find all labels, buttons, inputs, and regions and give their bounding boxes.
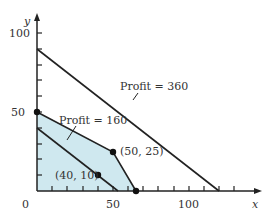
x-axis-label: x — [252, 198, 259, 211]
y-axis-label: y — [23, 15, 31, 28]
tick-label-y50: 50 — [11, 106, 25, 119]
tick-label-0: 0 — [22, 198, 29, 211]
profit-360-leader — [133, 93, 138, 100]
chart-canvas: 0 50 100 x 50 100 y Profit = 360 Profit … — [0, 0, 280, 216]
point-65-0 — [133, 188, 139, 194]
x-axis-arrow-icon — [254, 188, 262, 194]
point-50-25 — [110, 149, 116, 155]
point-0-50 — [34, 109, 40, 115]
point-50-25-label: (50, 25) — [120, 145, 164, 158]
profit-360-label: Profit = 360 — [120, 80, 188, 93]
tick-label-x50: 50 — [106, 198, 120, 211]
tick-label-y100: 100 — [9, 27, 30, 40]
profit-160-label: Profit = 160 — [59, 114, 127, 127]
y-axis-arrow-icon — [34, 13, 40, 21]
tick-label-x100: 100 — [178, 198, 199, 211]
point-40-10-label: (40, 10) — [55, 169, 99, 182]
